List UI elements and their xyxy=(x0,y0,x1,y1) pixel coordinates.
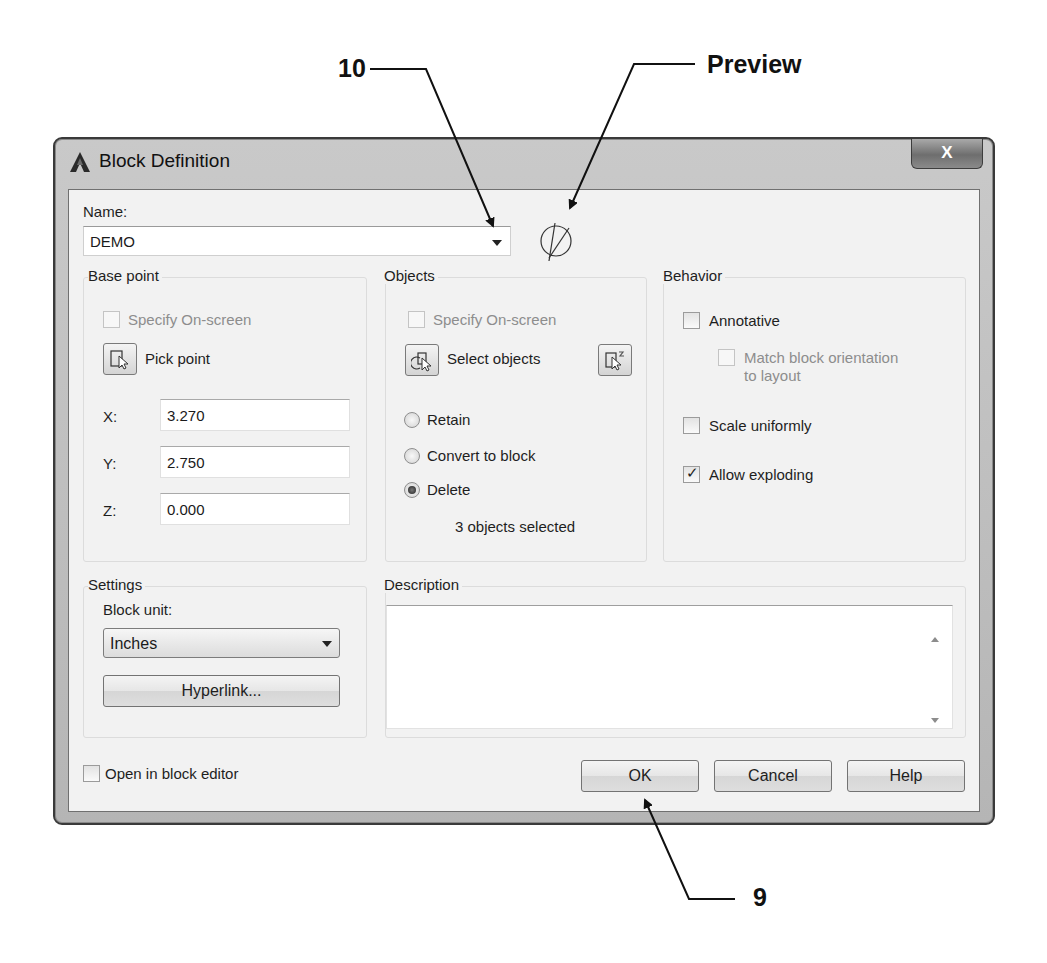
autocad-app-icon xyxy=(69,151,91,173)
behavior-group: Behavior Annotative Match block orientat… xyxy=(663,277,966,562)
objects-group: Objects Specify On-screen Select objects xyxy=(385,277,647,562)
name-label: Name: xyxy=(83,203,127,220)
objects-title: Objects xyxy=(384,267,438,284)
base-point-group: Base point Specify On-screen Pick point … xyxy=(83,277,367,562)
description-title: Description xyxy=(384,576,462,593)
block-unit-label: Block unit: xyxy=(103,601,172,618)
scale-uniformly-label: Scale uniformly xyxy=(709,417,812,434)
cancel-button[interactable]: Cancel xyxy=(714,760,832,792)
pick-point-label: Pick point xyxy=(145,350,210,367)
name-combobox[interactable]: DEMO xyxy=(83,226,511,256)
y-value: 2.750 xyxy=(167,454,205,471)
dropdown-arrow-icon[interactable] xyxy=(492,240,502,246)
hyperlink-button[interactable]: Hyperlink... xyxy=(103,675,340,707)
match-orientation-label: Match block orientation xyxy=(744,349,898,366)
match-orientation-label-line2: to layout xyxy=(744,367,801,384)
dialog-title: Block Definition xyxy=(99,150,230,172)
close-button[interactable]: X xyxy=(911,139,983,169)
callout-label-preview: Preview xyxy=(707,50,802,79)
allow-exploding-checkbox[interactable]: ✓ xyxy=(683,466,700,483)
y-coordinate-input[interactable]: 2.750 xyxy=(160,446,350,478)
convert-to-block-label: Convert to block xyxy=(427,447,535,464)
description-textarea[interactable] xyxy=(386,605,953,729)
callout-label-10: 10 xyxy=(338,54,366,83)
scroll-up-icon[interactable] xyxy=(931,637,939,642)
dialog-client-area: Name: DEMO Base point Specify On-screen … xyxy=(68,189,980,812)
block-unit-select[interactable]: Inches xyxy=(103,628,340,658)
allow-exploding-label: Allow exploding xyxy=(709,466,813,483)
z-value: 0.000 xyxy=(167,501,205,518)
scale-uniformly-checkbox[interactable] xyxy=(683,417,700,434)
z-coordinate-input[interactable]: 0.000 xyxy=(160,493,350,525)
settings-title: Settings xyxy=(88,576,145,593)
select-objects-button[interactable] xyxy=(405,344,439,376)
block-preview-icon xyxy=(538,218,574,262)
block-definition-dialog: Block Definition X Name: DEMO Base point… xyxy=(53,137,995,825)
pick-point-button[interactable] xyxy=(103,343,137,375)
convert-to-block-radio[interactable] xyxy=(404,448,420,464)
base-specify-onscreen-checkbox[interactable] xyxy=(103,311,120,328)
objects-specify-onscreen-checkbox[interactable] xyxy=(408,311,425,328)
base-point-title: Base point xyxy=(88,267,162,284)
x-coordinate-input[interactable]: 3.270 xyxy=(160,399,350,431)
delete-label: Delete xyxy=(427,481,470,498)
base-specify-onscreen-label: Specify On-screen xyxy=(128,311,251,328)
pick-point-icon xyxy=(109,349,131,371)
objects-selected-status: 3 objects selected xyxy=(455,518,575,535)
delete-radio[interactable] xyxy=(404,482,420,498)
scroll-down-icon[interactable] xyxy=(931,718,939,723)
select-objects-label: Select objects xyxy=(447,350,540,367)
retain-radio[interactable] xyxy=(404,412,420,428)
name-value: DEMO xyxy=(90,233,135,250)
z-label: Z: xyxy=(103,502,116,519)
retain-label: Retain xyxy=(427,411,470,428)
quick-select-icon xyxy=(604,350,626,372)
x-value: 3.270 xyxy=(167,407,205,424)
x-label: X: xyxy=(103,408,117,425)
quick-select-button[interactable] xyxy=(598,344,632,376)
help-button[interactable]: Help xyxy=(847,760,965,792)
ok-button[interactable]: OK xyxy=(581,760,699,792)
description-group: Description xyxy=(385,586,966,738)
y-label: Y: xyxy=(103,455,116,472)
annotative-checkbox[interactable] xyxy=(683,312,700,329)
block-unit-value: Inches xyxy=(110,635,157,653)
title-bar[interactable]: Block Definition X xyxy=(55,139,993,189)
settings-group: Settings Block unit: Inches Hyperlink... xyxy=(83,586,367,738)
open-in-block-editor-checkbox[interactable] xyxy=(83,765,100,782)
checkmark-icon: ✓ xyxy=(686,464,699,482)
callout-label-9: 9 xyxy=(753,883,767,912)
annotative-label: Annotative xyxy=(709,312,780,329)
objects-specify-onscreen-label: Specify On-screen xyxy=(433,311,556,328)
open-in-block-editor-label: Open in block editor xyxy=(105,765,238,782)
match-orientation-checkbox[interactable] xyxy=(718,349,735,366)
behavior-title: Behavior xyxy=(663,267,725,284)
chevron-down-icon xyxy=(322,641,332,647)
select-objects-icon xyxy=(411,350,433,372)
